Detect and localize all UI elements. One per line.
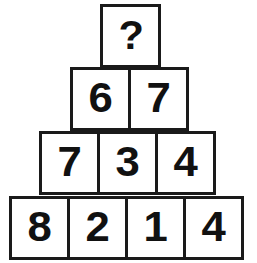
pyramid-row-2: 6 7: [70, 67, 189, 131]
pyramid-row-3: 7 3 4: [39, 131, 216, 195]
pyramid-cell[interactable]: 8: [9, 196, 70, 260]
pyramid-cell[interactable]: 4: [183, 196, 244, 260]
pyramid-cell[interactable]: 3: [97, 131, 158, 195]
pyramid-row-1: ?: [100, 4, 161, 68]
pyramid-row-4: 8 2 1 4: [9, 196, 244, 260]
cell-value: ?: [118, 15, 142, 58]
pyramid-cell[interactable]: 7: [39, 131, 100, 195]
cell-value: 3: [116, 141, 139, 185]
pyramid-cell[interactable]: 7: [128, 67, 189, 131]
pyramid-cell[interactable]: 2: [67, 196, 128, 260]
cell-value: 4: [174, 141, 197, 185]
cell-value: 4: [202, 206, 225, 250]
cell-value: 1: [144, 206, 167, 250]
cell-value: 8: [28, 206, 51, 250]
cell-value: 6: [89, 77, 112, 121]
pyramid-cell[interactable]: 1: [125, 196, 186, 260]
pyramid-cell[interactable]: 6: [70, 67, 131, 131]
pyramid-cell[interactable]: 4: [155, 131, 216, 195]
cell-value: 2: [86, 206, 109, 250]
cell-value: 7: [58, 141, 81, 185]
pyramid-cell[interactable]: ?: [100, 4, 161, 68]
number-pyramid: ? 6 7 7 3 4 8 2 1 4: [0, 0, 257, 263]
cell-value: 7: [147, 77, 170, 121]
